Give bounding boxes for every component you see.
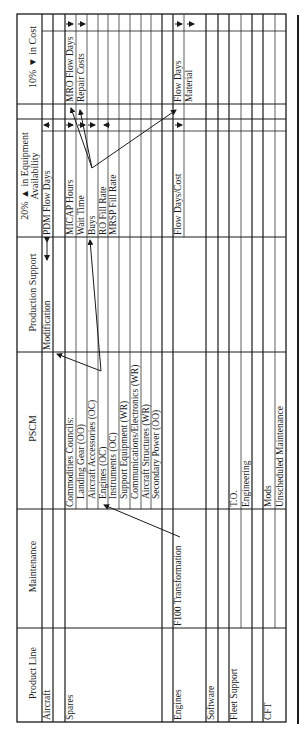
pscm-item: Landing Gear (OO) <box>76 424 87 507</box>
engines-equipment-availability: Flow Days/Cost <box>173 174 184 236</box>
aircraft-production-support: Modification <box>42 300 53 350</box>
row-engines-label: Engines <box>173 689 184 720</box>
equipment-item: MRSP Fill Rate <box>108 175 119 235</box>
engines-maintenance: F100 Transformation <box>173 546 184 627</box>
row-software-label: Software <box>206 686 217 720</box>
pscm-item: Mods <box>263 485 274 507</box>
equipment-item: Wait Time <box>76 195 87 235</box>
aircraft-equipment-availability: PDM Flow Days <box>42 171 53 235</box>
cost-item: Flow Days <box>173 61 184 102</box>
row-fleet-support-label: Fleet Support <box>229 669 240 720</box>
pscm-item: Aircraft Accessories (OC) <box>87 400 98 507</box>
cost-item: Repair Costs <box>76 53 87 102</box>
pscm-item: Engineering <box>241 461 252 507</box>
pscm-item: Commodities Councils: <box>65 417 76 507</box>
header-pscm: PSCM <box>27 352 38 505</box>
link-f100-to-engines <box>104 505 180 537</box>
pscm-item: Secondary Power (OO) <box>151 410 162 507</box>
equipment-item: Buys <box>87 215 98 235</box>
row-cft-label: CFT <box>263 703 274 720</box>
link-engines-to-buys <box>90 240 101 371</box>
metrics-alignment-diagram: Product Line Maintenance PSCM Production… <box>0 0 308 732</box>
cost-item: MRO Flow Days <box>65 37 76 102</box>
pscm-item: Communications/Electronics (WR) <box>130 365 141 507</box>
link-engines-to-modification <box>57 354 101 371</box>
header-maintenance: Maintenance <box>27 509 38 624</box>
pscm-item: Unscheduled Maintenance <box>275 406 286 507</box>
header-product-line: Product Line <box>27 628 38 718</box>
cost-item: Material <box>184 70 195 102</box>
pscm-item: T.O. <box>229 490 240 507</box>
pscm-item: Instruments (OC) <box>108 432 119 507</box>
row-aircraft-label: Aircraft <box>42 690 53 720</box>
header-cost: 10% ▼ in Cost <box>27 14 38 100</box>
row-spares-label: Spares <box>65 695 76 720</box>
header-production-support: Production Support <box>27 237 38 348</box>
equipment-item: MICAP Hours <box>65 180 76 235</box>
grid-lines <box>0 0 308 732</box>
header-equipment-availability-2: Availability <box>29 119 40 233</box>
pscm-item: Support Equipment (WR) <box>119 401 130 507</box>
